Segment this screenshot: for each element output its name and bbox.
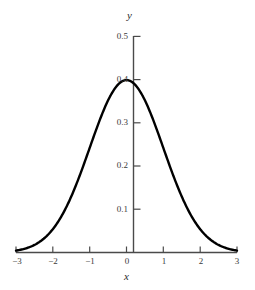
y-axis-ticks xyxy=(134,36,141,209)
y-tick-label-0.4: 0.4 xyxy=(106,75,128,84)
x-tick-label-2: 2 xyxy=(194,257,208,266)
x-tick-label-0: 0 xyxy=(120,257,134,266)
x-tick-label-3: 3 xyxy=(230,257,244,266)
x-tick-label--1: −1 xyxy=(83,257,97,266)
y-tick-label-0.2: 0.2 xyxy=(106,161,128,170)
x-axis-ticks xyxy=(16,247,237,253)
x-axis-label: x xyxy=(124,271,129,282)
plot-canvas xyxy=(0,0,255,290)
y-axis-label: y xyxy=(127,10,132,21)
x-tick-label--3: −3 xyxy=(10,257,24,266)
y-tick-label-0.5: 0.5 xyxy=(106,32,128,41)
x-tick-label-1: 1 xyxy=(157,257,171,266)
chart-figure: 0.5 0.4 0.3 0.2 0.1 −3 −2 −1 0 1 2 3 y x xyxy=(0,0,255,290)
y-tick-label-0.3: 0.3 xyxy=(106,118,128,127)
x-tick-label--2: −2 xyxy=(46,257,60,266)
y-tick-label-0.1: 0.1 xyxy=(106,205,128,214)
